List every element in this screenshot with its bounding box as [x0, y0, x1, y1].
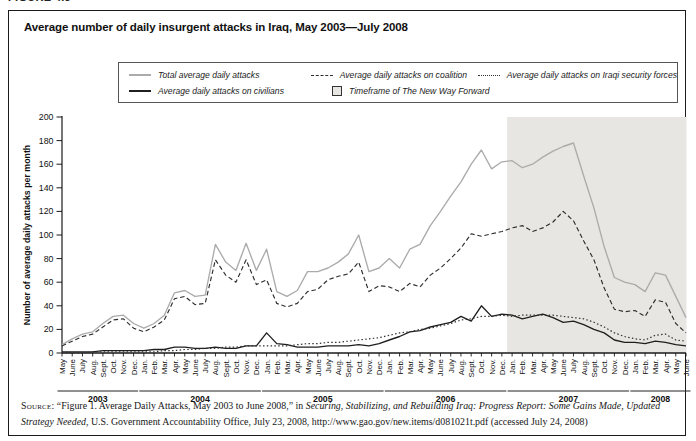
- month-label: June: [314, 358, 323, 376]
- month-label: Dec.: [621, 359, 630, 375]
- month-label: Apr.: [293, 359, 302, 373]
- month-label: Oct.: [477, 359, 486, 373]
- month-label: Apr.: [662, 359, 671, 373]
- month-label: Nov.: [488, 359, 497, 375]
- month-label: July: [78, 359, 87, 373]
- month-label: Mar.: [283, 359, 292, 374]
- month-label: Aug.: [580, 359, 589, 375]
- month-label: Aug.: [334, 359, 343, 375]
- month-label: Aug.: [457, 359, 466, 375]
- month-label: May: [304, 359, 313, 374]
- line-chart: 020406080100120140160180200Number of ave…: [0, 0, 696, 441]
- month-label: Mar.: [160, 359, 169, 374]
- y-tick-label: 120: [39, 206, 54, 216]
- month-label: Nov.: [119, 359, 128, 375]
- month-label: Sept.: [467, 359, 476, 377]
- y-tick-label: 100: [39, 230, 54, 240]
- shaded-region-timeframe: [507, 117, 686, 353]
- y-tick-label: 200: [39, 112, 54, 122]
- month-label: Dec.: [252, 359, 261, 375]
- month-label: Oct.: [355, 359, 364, 373]
- month-label: July: [447, 359, 456, 373]
- month-label: Sept.: [590, 359, 599, 377]
- month-label: Apr.: [416, 359, 425, 373]
- month-label: Nov.: [610, 359, 619, 375]
- month-label: Feb.: [641, 359, 650, 375]
- month-label: June: [682, 358, 691, 376]
- month-label: July: [569, 359, 578, 373]
- month-label: Sept.: [99, 359, 108, 377]
- month-label: May: [672, 359, 681, 374]
- month-label: Jan.: [385, 359, 394, 374]
- month-label: Mar.: [651, 359, 660, 374]
- month-label: July: [324, 359, 333, 373]
- month-label: June: [68, 358, 77, 376]
- month-label: Jan.: [263, 359, 272, 374]
- month-label: Nov.: [365, 359, 374, 375]
- page: { "figure_label": "FIGURE 4.5", "title":…: [0, 0, 696, 441]
- month-label: Dec.: [130, 359, 139, 375]
- month-label: Aug.: [211, 359, 220, 375]
- month-label: Aug.: [89, 359, 98, 375]
- month-label: May: [426, 359, 435, 374]
- month-label: June: [559, 358, 568, 376]
- month-label: Feb.: [150, 359, 159, 375]
- month-label: Jan.: [508, 359, 517, 374]
- month-label: Sept.: [222, 359, 231, 377]
- month-label: Apr.: [171, 359, 180, 373]
- month-label: May: [549, 359, 558, 374]
- y-tick-label: 140: [39, 183, 54, 193]
- y-tick-label: 60: [44, 277, 54, 287]
- y-tick-label: 20: [44, 324, 54, 334]
- month-label: Mar.: [406, 359, 415, 374]
- month-label: Jan.: [140, 359, 149, 374]
- month-label: Nov.: [242, 359, 251, 375]
- month-label: Sept.: [344, 359, 353, 377]
- y-tick-label: 180: [39, 136, 54, 146]
- source-label: Source:: [21, 400, 54, 411]
- month-label: May: [58, 359, 67, 374]
- y-tick-label: 0: [49, 348, 54, 358]
- month-label: Oct.: [600, 359, 609, 373]
- month-label: Dec.: [375, 359, 384, 375]
- month-label: June: [436, 358, 445, 376]
- month-label: Feb.: [273, 359, 282, 375]
- source-part1: “Figure 1. Average Daily Attacks, May 20…: [57, 400, 306, 411]
- month-label: Feb.: [518, 359, 527, 375]
- y-tick-label: 160: [39, 159, 54, 169]
- source-part2: , U.S. Government Accountability Office,…: [86, 416, 588, 427]
- month-label: Apr.: [539, 359, 548, 373]
- month-label: Feb.: [396, 359, 405, 375]
- month-label: Mar.: [529, 359, 538, 374]
- month-label: Dec.: [498, 359, 507, 375]
- month-label: June: [191, 358, 200, 376]
- y-tick-label: 80: [44, 254, 54, 264]
- month-label: July: [201, 359, 210, 373]
- source-note: Source: “Figure 1. Average Daily Attacks…: [21, 398, 677, 429]
- month-label: May: [181, 359, 190, 374]
- y-axis-title: Number of average daily attacks per mont…: [22, 145, 32, 325]
- month-label: Oct.: [232, 359, 241, 373]
- month-label: Oct.: [109, 359, 118, 373]
- y-tick-label: 40: [44, 301, 54, 311]
- month-label: Jan.: [631, 359, 640, 374]
